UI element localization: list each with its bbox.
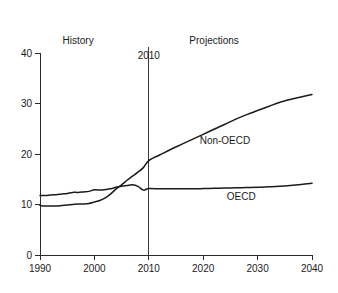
x-axis-ticks: 199020002010202020302040 <box>29 255 324 274</box>
x-tick-label: 2020 <box>192 263 215 274</box>
y-tick-label: 0 <box>26 250 32 261</box>
series-label-oecd: OECD <box>227 191 256 202</box>
chart-annotations: HistoryProjections2010 <box>63 35 239 61</box>
y-tick-label: 20 <box>21 149 33 160</box>
x-tick-label: 2030 <box>246 263 269 274</box>
y-tick-label: 30 <box>21 98 33 109</box>
x-tick-label: 2010 <box>138 263 161 274</box>
y-tick-label: 10 <box>21 199 33 210</box>
series-labels: Non-OECDOECD <box>200 135 256 202</box>
series-line-oecd <box>40 183 312 195</box>
annotation-history: History <box>63 35 94 46</box>
x-tick-label: 2040 <box>301 263 324 274</box>
y-axis-ticks: 010203040 <box>21 48 40 261</box>
chart-axes <box>40 53 312 255</box>
chart-container: 010203040 199020002010202020302040 Histo… <box>0 0 338 293</box>
y-tick-label: 40 <box>21 48 33 59</box>
chart-series <box>40 94 312 206</box>
annotation-divider: 2010 <box>138 50 161 61</box>
annotation-projections: Projections <box>189 35 238 46</box>
line-chart: 010203040 199020002010202020302040 Histo… <box>0 0 338 293</box>
x-tick-label: 2000 <box>83 263 106 274</box>
series-label-non-oecd: Non-OECD <box>200 135 251 146</box>
x-tick-label: 1990 <box>29 263 52 274</box>
